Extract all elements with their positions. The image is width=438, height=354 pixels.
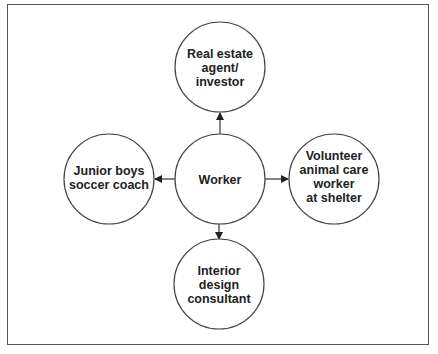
svg-text:design: design — [199, 278, 239, 292]
svg-text:worker: worker — [313, 177, 355, 191]
svg-text:at shelter: at shelter — [306, 191, 362, 205]
svg-text:agent/: agent/ — [202, 61, 239, 75]
node-bottom: Interior design consultant — [174, 239, 264, 329]
svg-text:Volunteer: Volunteer — [306, 149, 363, 163]
svg-text:consultant: consultant — [187, 292, 251, 306]
node-right: Volunteer animal care worker at shelter — [289, 134, 379, 224]
node-left: Junior boys soccer coach — [64, 134, 154, 224]
svg-text:Worker: Worker — [199, 173, 242, 187]
node-top: Real estate agent/ investor — [175, 22, 265, 112]
svg-text:Real estate: Real estate — [187, 47, 253, 61]
svg-text:investor: investor — [196, 75, 245, 89]
svg-text:Junior boys: Junior boys — [74, 164, 145, 178]
svg-text:Interior: Interior — [197, 264, 240, 278]
svg-text:soccer coach: soccer coach — [69, 178, 149, 192]
node-center: Worker — [175, 134, 265, 224]
svg-text:animal care: animal care — [300, 163, 369, 177]
role-diagram: Worker Real estate agent/ investor Junio… — [0, 0, 438, 354]
